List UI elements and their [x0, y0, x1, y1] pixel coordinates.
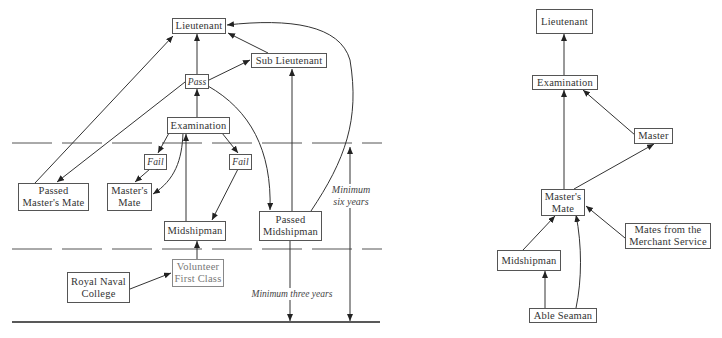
node-label: Midshipman [501, 255, 556, 267]
node-label: Lieutenant [541, 16, 588, 28]
node-label: Sub Lieutenant [256, 55, 323, 67]
node-label-line1: Volunteer [177, 261, 219, 273]
annotation-minimum-six-years: Minimum six years [330, 184, 372, 208]
node-fail-left: Fail [144, 154, 167, 170]
node-label-line1: Passed [39, 185, 69, 197]
node-label-line2: First Class [175, 273, 222, 285]
node-label: Examination [171, 120, 227, 132]
node-volunteer-first-class: Volunteer First Class [172, 259, 224, 287]
node-masters-mate-left: Master's Mate [107, 183, 152, 211]
node-masters-mate-right: Master's Mate [541, 189, 585, 216]
node-label-line2: Merchant Service [629, 236, 707, 248]
node-able-seaman: Able Seaman [529, 308, 597, 323]
node-label: Pass [188, 76, 207, 88]
node-label-line2: Mate [118, 197, 140, 209]
annotation-line2: six years [330, 196, 372, 208]
node-label: Fail [232, 156, 249, 168]
node-label: Lieutenant [176, 20, 223, 32]
node-label: Examination [537, 77, 593, 89]
node-label-line2: Master's Mate [23, 197, 85, 209]
node-lieutenant: Lieutenant [172, 18, 226, 34]
node-sub-lieutenant: Sub Lieutenant [251, 53, 327, 68]
node-label: Able Seaman [534, 310, 592, 322]
node-label-line2: Mate [552, 203, 574, 215]
node-label: Fail [147, 156, 164, 168]
node-label: Midshipman [167, 225, 222, 237]
node-passed-midshipman: Passed Midshipman [259, 211, 322, 241]
node-midshipman-right: Midshipman [497, 250, 561, 271]
node-label-line1: Passed [276, 214, 306, 226]
node-label-line1: Master's [111, 185, 148, 197]
node-label-line1: Mates from the [635, 224, 702, 236]
node-examination: Examination [167, 117, 230, 134]
node-passed-masters-mate: Passed Master's Mate [18, 183, 89, 211]
node-examination-right: Examination [532, 75, 598, 90]
node-master: Master [634, 128, 673, 144]
node-label: Master [638, 130, 668, 142]
node-label-line1: Master's [545, 191, 582, 203]
annotation-minimum-three-years: Minimum three years [250, 288, 334, 300]
node-label-line2: Midshipman [263, 226, 318, 238]
node-royal-naval-college: Royal Naval College [67, 272, 130, 303]
node-pass: Pass [185, 74, 209, 89]
node-lieutenant-right: Lieutenant [536, 9, 593, 34]
node-label-line1: Royal Naval [71, 276, 126, 288]
annotation-line1: Minimum [330, 184, 372, 196]
node-fail-right: Fail [229, 154, 252, 170]
node-midshipman-left: Midshipman [164, 221, 226, 241]
node-mates-from-merchant-service: Mates from the Merchant Service [625, 223, 711, 249]
annotation-text: Minimum three years [252, 289, 333, 299]
node-label-line2: College [81, 288, 115, 300]
